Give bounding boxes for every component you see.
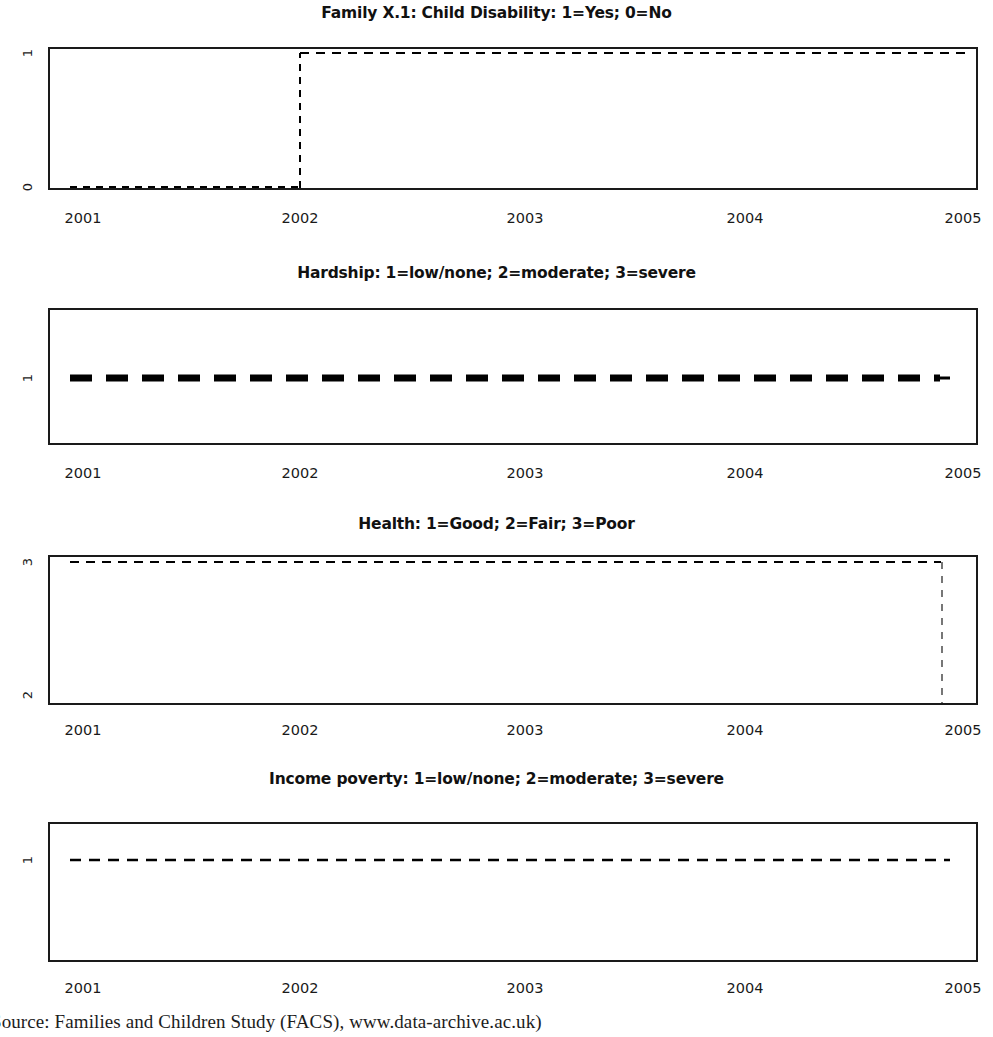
panel-child-disability: Family X.1: Child Disability: 1=Yes; 0=N… (0, 0, 993, 250)
panel-income-poverty: Income poverty: 1=low/none; 2=moderate; … (0, 755, 993, 1010)
xtick-label-2005-panel2: 2005 (928, 465, 993, 481)
xtick-label-2005-panel3: 2005 (928, 722, 993, 738)
xtick-label-2001-panel1: 2001 (48, 210, 118, 226)
source-note: Source: Families and Children Study (FAC… (0, 1011, 542, 1033)
xtick-label-2002-panel3: 2002 (265, 722, 335, 738)
xtick-label-2004-panel3: 2004 (710, 722, 780, 738)
xtick-label-2004-panel2: 2004 (710, 465, 780, 481)
plot-series-hardship (0, 250, 993, 500)
xtick-label-2001-panel4: 2001 (48, 980, 118, 996)
xtick-label-2003-panel3: 2003 (490, 722, 560, 738)
plot-series-income-poverty (0, 755, 993, 1010)
ytick-label-hardship-1: 1 (21, 368, 35, 388)
xtick-label-2001-panel2: 2001 (48, 465, 118, 481)
figure-page: Family X.1: Child Disability: 1=Yes; 0=N… (0, 0, 993, 1037)
ytick-label-child-disability-0: 0 (21, 177, 35, 197)
ytick-label-health-3: 3 (21, 552, 35, 572)
xtick-label-2004-panel4: 2004 (710, 980, 780, 996)
panel-health: Health: 1=Good; 2=Fair; 3=Poor 3 2 2001 … (0, 500, 993, 755)
plot-series-health (0, 500, 993, 755)
xtick-label-2003-panel1: 2003 (490, 210, 560, 226)
xtick-label-2005-panel1: 2005 (928, 210, 993, 226)
ytick-label-child-disability-1: 1 (21, 43, 35, 63)
xtick-label-2002-panel2: 2002 (265, 465, 335, 481)
xtick-label-2002-panel4: 2002 (265, 980, 335, 996)
ytick-label-income-poverty-1: 1 (21, 850, 35, 870)
xtick-label-2004-panel1: 2004 (710, 210, 780, 226)
xtick-label-2003-panel2: 2003 (490, 465, 560, 481)
ytick-label-health-2: 2 (21, 685, 35, 705)
xtick-label-2005-panel4: 2005 (928, 980, 993, 996)
xtick-label-2001-panel3: 2001 (48, 722, 118, 738)
xtick-label-2003-panel4: 2003 (490, 980, 560, 996)
xtick-label-2002-panel1: 2002 (265, 210, 335, 226)
panel-hardship: Hardship: 1=low/none; 2=moderate; 3=seve… (0, 250, 993, 500)
